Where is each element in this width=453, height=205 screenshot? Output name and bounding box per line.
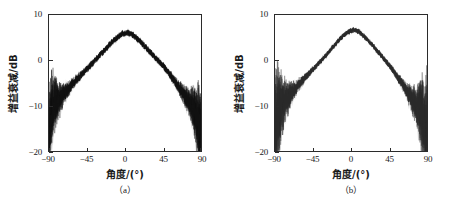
y-axis-title-a: 增益衰减/dB [6, 14, 20, 152]
y-tick-label: 10 [0, 10, 42, 19]
y-axis-title-b: 增益衰减/dB [232, 14, 246, 152]
x-tick-label: −90 [33, 155, 63, 164]
x-axis-title-b: 角度/(°) [274, 169, 428, 181]
plot-curve-a [49, 15, 201, 151]
y-tick-mark [49, 106, 53, 107]
y-tick-label: −10 [224, 102, 268, 111]
x-tick-label: −45 [72, 155, 102, 164]
x-tick-mark [49, 148, 50, 152]
y-tick-mark [49, 60, 53, 61]
x-tick-label: 45 [149, 155, 179, 164]
x-tick-mark [351, 148, 352, 152]
x-tick-label: 90 [413, 155, 443, 164]
chart-panel-b: 增益衰减/dB 100−10−20 −90−4504590 角度/(°) （b） [226, 0, 453, 205]
y-tick-mark [275, 152, 279, 153]
trace-centre-line [49, 30, 201, 151]
panel-caption-b: （b） [274, 185, 428, 195]
y-tick-label: −10 [0, 102, 42, 111]
y-tick-mark [49, 14, 53, 15]
plot-curve-b [275, 15, 427, 151]
trace-core [49, 29, 201, 151]
x-tick-label: 90 [187, 155, 217, 164]
y-tick-label: 0 [224, 56, 268, 65]
x-tick-mark [275, 148, 276, 152]
y-tick-label: 0 [0, 56, 42, 65]
y-tick-label: 10 [224, 10, 268, 19]
x-tick-mark [164, 148, 165, 152]
x-tick-mark [125, 148, 126, 152]
figure-antenna-gain-attenuation: 增益衰减/dB 100−10−20 −90−4504590 角度/(°) （a）… [0, 0, 453, 205]
chart-panel-a: 增益衰减/dB 100−10−20 −90−4504590 角度/(°) （a） [0, 0, 226, 205]
y-tick-mark [275, 106, 279, 107]
x-tick-label: 0 [110, 155, 140, 164]
x-tick-mark [313, 148, 314, 152]
x-tick-label: 45 [375, 155, 405, 164]
x-tick-mark [426, 148, 427, 152]
x-tick-label: 0 [336, 155, 366, 164]
plot-area-b [274, 14, 428, 152]
y-tick-mark [275, 14, 279, 15]
x-tick-mark [390, 148, 391, 152]
x-tick-mark [87, 148, 88, 152]
x-tick-label: −45 [298, 155, 328, 164]
x-tick-mark [200, 148, 201, 152]
plot-area-a [48, 14, 202, 152]
y-tick-mark [49, 152, 53, 153]
x-axis-title-a: 角度/(°) [48, 169, 202, 181]
panel-caption-a: （a） [48, 185, 202, 195]
trace-noise-band [49, 28, 201, 151]
x-tick-label: −90 [259, 155, 289, 164]
y-tick-mark [275, 60, 279, 61]
